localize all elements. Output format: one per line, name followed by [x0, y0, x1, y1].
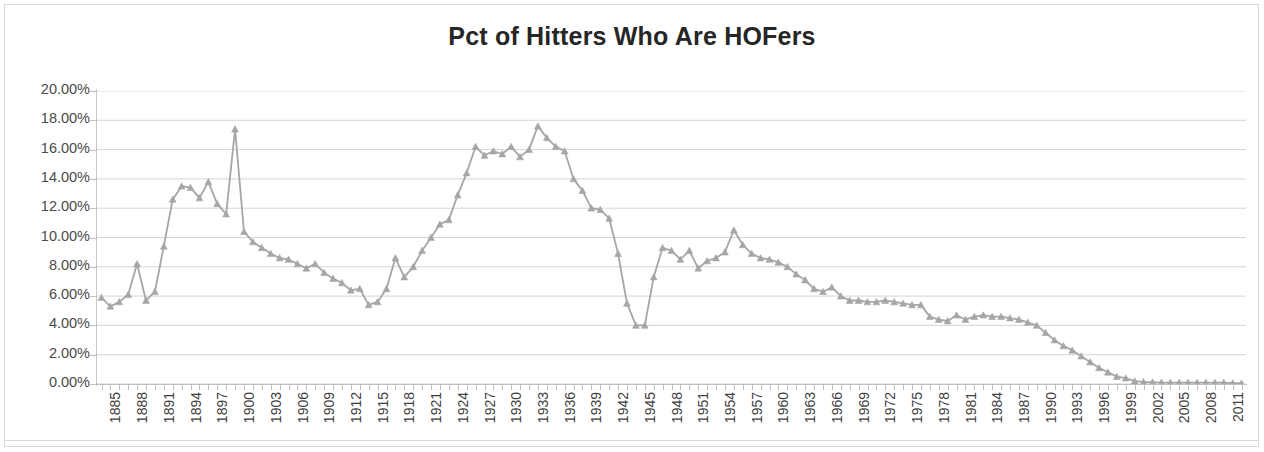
- x-axis-tick: [226, 384, 227, 390]
- x-axis-tick: [1090, 384, 1091, 390]
- x-axis-tick: [306, 384, 307, 390]
- y-axis-label: 8.00%: [10, 257, 90, 273]
- y-axis-tick: [90, 150, 97, 151]
- x-axis-tick: [1144, 384, 1145, 390]
- chart-page: Pct of Hitters Who Are HOFers 20.00%18.0…: [0, 0, 1264, 452]
- x-axis-label: 1936: [562, 392, 578, 423]
- x-axis-tick: [609, 384, 610, 390]
- y-axis-label: 12.00%: [10, 198, 90, 214]
- x-axis-label: 1948: [669, 392, 685, 423]
- x-axis-tick: [778, 384, 779, 390]
- x-axis-tick: [1224, 384, 1225, 390]
- x-axis-tick: [297, 384, 298, 390]
- x-axis-tick: [1161, 384, 1162, 390]
- x-axis-tick: [199, 384, 200, 390]
- x-axis-label: 1927: [482, 392, 498, 423]
- x-axis-tick: [832, 384, 833, 390]
- x-axis-label: 1990: [1043, 392, 1059, 423]
- gridlines: [97, 91, 1246, 384]
- x-axis-tick: [467, 384, 468, 390]
- x-axis-label: 1951: [695, 392, 711, 423]
- y-axis-tick: [90, 238, 97, 239]
- y-axis-label: 0.00%: [10, 374, 90, 390]
- data-point-marker: [205, 178, 212, 184]
- y-axis-label: 6.00%: [10, 286, 90, 302]
- data-point-marker: [535, 123, 542, 129]
- data-point-marker: [490, 148, 497, 154]
- bottom-divider: [4, 440, 1259, 441]
- x-axis-tick: [636, 384, 637, 390]
- x-axis-label: 1960: [775, 392, 791, 423]
- x-axis-tick: [422, 384, 423, 390]
- x-axis-tick: [289, 384, 290, 390]
- data-point-marker: [383, 285, 390, 291]
- x-axis-label: 1963: [802, 392, 818, 423]
- x-axis-tick: [173, 384, 174, 390]
- x-axis-tick: [146, 384, 147, 390]
- x-axis-tick: [698, 384, 699, 390]
- y-axis-tick: [90, 91, 97, 92]
- x-axis-tick: [841, 384, 842, 390]
- y-axis-tick: [90, 296, 97, 297]
- x-axis-tick: [912, 384, 913, 390]
- x-axis-tick: [734, 384, 735, 390]
- data-point-marker: [392, 255, 399, 261]
- x-axis-tick: [939, 384, 940, 390]
- y-axis-label: 16.00%: [10, 140, 90, 156]
- data-point-marker: [659, 244, 666, 250]
- y-axis-tick: [90, 208, 97, 209]
- x-axis-tick: [315, 384, 316, 390]
- x-axis-label: 1891: [161, 392, 177, 423]
- x-axis-tick: [280, 384, 281, 390]
- x-axis-tick: [253, 384, 254, 390]
- x-axis-tick: [110, 384, 111, 390]
- x-axis-label: 1939: [588, 392, 604, 423]
- data-point-marker: [730, 227, 737, 233]
- x-axis-tick: [1010, 384, 1011, 390]
- plot-area: [97, 91, 1246, 384]
- y-axis-label: 14.00%: [10, 169, 90, 185]
- x-axis-tick: [1019, 384, 1020, 390]
- x-axis-tick: [796, 384, 797, 390]
- x-axis-tick: [538, 384, 539, 390]
- x-axis-tick: [404, 384, 405, 390]
- x-axis-label: 1978: [936, 392, 952, 423]
- x-axis-tick: [680, 384, 681, 390]
- x-axis-tick: [1028, 384, 1029, 390]
- x-axis-tick: [431, 384, 432, 390]
- x-axis-label: 1888: [134, 392, 150, 423]
- x-axis-tick: [360, 384, 361, 390]
- x-axis-tick: [983, 384, 984, 390]
- x-axis-tick: [654, 384, 655, 390]
- data-point-marker: [650, 274, 657, 280]
- x-axis-tick: [885, 384, 886, 390]
- x-axis-tick: [1108, 384, 1109, 390]
- x-axis-label: 1930: [508, 392, 524, 423]
- x-axis-label: 1924: [455, 392, 471, 423]
- x-axis-label: 1972: [882, 392, 898, 423]
- x-axis-tick: [440, 384, 441, 390]
- x-axis-tick: [1037, 384, 1038, 390]
- x-axis-tick: [859, 384, 860, 390]
- x-axis-tick: [351, 384, 352, 390]
- x-axis-tick: [1001, 384, 1002, 390]
- y-axis-label: 18.00%: [10, 110, 90, 126]
- x-axis-tick: [244, 384, 245, 390]
- y-axis-tick: [90, 120, 97, 121]
- x-axis-tick: [128, 384, 129, 390]
- x-axis-label: 1957: [749, 392, 765, 423]
- data-point-marker: [454, 192, 461, 198]
- data-point-marker: [508, 143, 515, 149]
- x-axis-tick: [1206, 384, 1207, 390]
- x-axis-label: 1999: [1123, 392, 1139, 423]
- x-axis-tick: [850, 384, 851, 390]
- x-axis-tick: [1063, 384, 1064, 390]
- x-axis-label: 1933: [535, 392, 551, 423]
- x-axis-label: 1894: [188, 392, 204, 423]
- x-axis-tick: [458, 384, 459, 390]
- x-axis-label: 1981: [963, 392, 979, 423]
- x-axis-label: 1945: [642, 392, 658, 423]
- x-axis-tick: [476, 384, 477, 390]
- x-axis-tick: [1081, 384, 1082, 390]
- x-axis-tick: [502, 384, 503, 390]
